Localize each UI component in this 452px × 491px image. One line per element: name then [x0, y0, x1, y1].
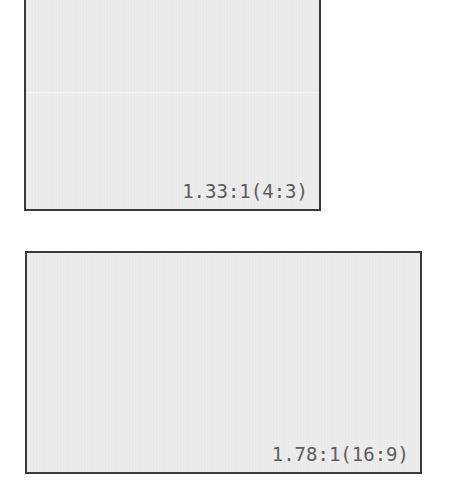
paper-texture-overlay — [27, 253, 420, 472]
scan-seam-line — [26, 92, 319, 93]
aspect-ratio-box-16-9: 1.78:1(16:9) — [25, 251, 422, 474]
paper-texture-overlay — [26, 0, 319, 209]
aspect-ratio-label-16-9: 1.78:1(16:9) — [272, 443, 409, 465]
aspect-ratio-box-4-3: 1.33:1(4:3) — [24, 0, 321, 211]
aspect-ratio-diagram: 1.33:1(4:3) 1.78:1(16:9) — [0, 0, 452, 491]
aspect-ratio-label-4-3: 1.33:1(4:3) — [182, 180, 308, 202]
